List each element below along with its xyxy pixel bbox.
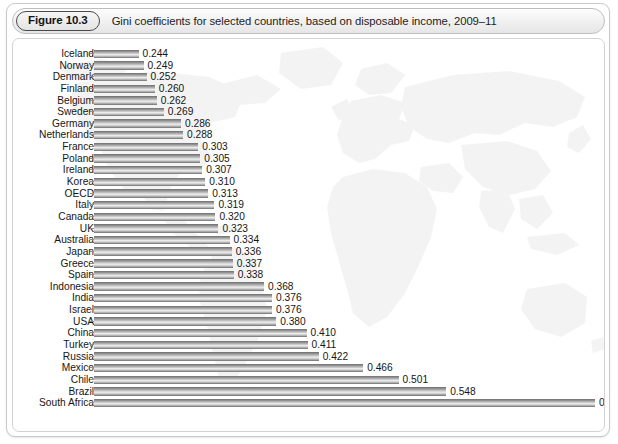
bar-value-label: 0.337 <box>237 258 263 270</box>
bar-value-label: 0.319 <box>218 199 244 211</box>
category-label: Indonesia <box>12 281 94 293</box>
category-label: Sweden <box>12 106 94 118</box>
bar <box>94 282 264 290</box>
bar-value-label: 0.323 <box>222 223 248 235</box>
category-label: Germany <box>12 118 94 130</box>
chart-plot-area: Iceland0.244Norway0.249Denmark0.252Finla… <box>12 38 605 432</box>
bar <box>94 96 157 104</box>
bar <box>94 352 319 360</box>
bar <box>94 306 272 314</box>
bar-row: Indonesia0.368 <box>13 281 605 293</box>
category-label: Belgium <box>12 95 94 107</box>
bar-value-label: 0.336 <box>236 246 262 258</box>
bars-layer: Iceland0.244Norway0.249Denmark0.252Finla… <box>13 39 605 432</box>
bar-value-label: 0.338 <box>238 269 264 281</box>
category-label: Italy <box>12 199 94 211</box>
bar-row: Italy0.319 <box>13 199 605 211</box>
bar-row: Russia0.422 <box>13 351 605 363</box>
bar-value-label: 0.320 <box>219 211 245 223</box>
bar <box>94 364 363 372</box>
bar <box>94 143 198 151</box>
category-label: Netherlands <box>12 129 94 141</box>
bar-value-label: 0.244 <box>143 48 169 60</box>
bar <box>94 376 399 384</box>
category-label: Denmark <box>12 71 94 83</box>
bar <box>94 178 205 186</box>
bar <box>94 341 308 349</box>
category-label: Mexico <box>12 362 94 374</box>
bar-value-label: 0.410 <box>311 327 337 339</box>
bar-row: Ireland0.307 <box>13 164 605 176</box>
bar-row: USA0.380 <box>13 316 605 328</box>
bar-row: Sweden0.269 <box>13 106 605 118</box>
bar-value-label: 0.310 <box>209 176 235 188</box>
bar-value-label: 0.380 <box>280 316 306 328</box>
category-label: Korea <box>12 176 94 188</box>
bar-value-label: 0.286 <box>185 118 211 130</box>
bar-row: Japan0.336 <box>13 246 605 258</box>
bar-row: Netherlands0.288 <box>13 129 605 141</box>
bar-row: Turkey0.411 <box>13 339 605 351</box>
bar-value-label: 0.260 <box>159 83 185 95</box>
bar-row: OECD0.313 <box>13 188 605 200</box>
bar <box>94 213 215 221</box>
bar-value-label: 0.376 <box>276 292 302 304</box>
bar-value-label: 0.288 <box>187 129 213 141</box>
category-label: Norway <box>12 60 94 72</box>
bar <box>94 131 183 139</box>
bar <box>94 108 164 116</box>
bar <box>94 294 272 302</box>
figure-header: Figure 10.3 Gini coefficients for select… <box>12 8 605 34</box>
bar <box>94 317 276 325</box>
bar-row: Iceland0.244 <box>13 48 605 60</box>
category-label: Japan <box>12 246 94 258</box>
bar-value-label: 0.249 <box>148 60 174 72</box>
category-label: Iceland <box>12 48 94 60</box>
bar-row: Brazil0.548 <box>13 386 605 398</box>
bar-row: UK0.323 <box>13 223 605 235</box>
bar <box>94 236 230 244</box>
bar-row: Chile0.501 <box>13 374 605 386</box>
bar <box>94 259 233 267</box>
bar-value-label: 0.269 <box>168 106 194 118</box>
bar-row: Canada0.320 <box>13 211 605 223</box>
bar-row: China0.410 <box>13 327 605 339</box>
category-label: Turkey <box>12 339 94 351</box>
bar-value-label: 0.303 <box>202 141 228 153</box>
bar-value-label: 0.411 <box>312 339 337 351</box>
bar <box>94 85 155 93</box>
bar-row: South Africa0.695 <box>13 397 605 409</box>
bar-row: Korea0.310 <box>13 176 605 188</box>
bar <box>94 73 147 81</box>
figure-frame: Figure 10.3 Gini coefficients for select… <box>6 3 610 437</box>
bar-value-label: 0.313 <box>212 188 238 200</box>
bar-row: Spain0.338 <box>13 269 605 281</box>
category-label: Finland <box>12 83 94 95</box>
bar-row: Israel0.376 <box>13 304 605 316</box>
bar-value-label: 0.376 <box>276 304 302 316</box>
bar-row: Mexico0.466 <box>13 362 605 374</box>
category-label: Ireland <box>12 164 94 176</box>
bar <box>94 154 200 162</box>
bar <box>94 271 234 279</box>
bar-value-label: 0.334 <box>234 234 260 246</box>
bar-row: Belgium0.262 <box>13 95 605 107</box>
bar-value-label: 0.501 <box>403 374 429 386</box>
bar-value-label: 0.695 <box>599 397 605 409</box>
bar-row: Greece0.337 <box>13 258 605 270</box>
figure-number-badge: Figure 10.3 <box>16 11 100 32</box>
category-label: OECD <box>12 188 94 200</box>
category-label: Brazil <box>12 386 94 398</box>
bar <box>94 201 214 209</box>
bar-value-label: 0.368 <box>268 281 294 293</box>
bar <box>94 50 139 58</box>
bar-value-label: 0.422 <box>323 351 349 363</box>
bar-value-label: 0.262 <box>161 95 187 107</box>
figure-caption: Gini coefficients for selected countries… <box>112 15 497 27</box>
bar-value-label: 0.305 <box>204 153 230 165</box>
bar <box>94 166 202 174</box>
bar <box>94 399 595 407</box>
bar-row: Poland0.305 <box>13 153 605 165</box>
bar-value-label: 0.252 <box>151 71 177 83</box>
bar-row: Germany0.286 <box>13 118 605 130</box>
